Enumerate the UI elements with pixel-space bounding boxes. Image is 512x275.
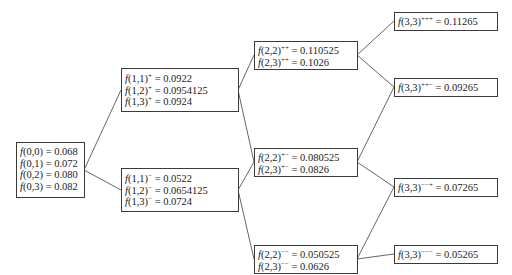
node-line: f(0,1) = 0.072	[20, 158, 81, 170]
node-line: f(0,0) = 0.068	[20, 146, 81, 158]
node-line: f(2,2)+− = 0.080525	[258, 152, 354, 164]
edge-n0-n1d	[84, 170, 121, 190]
node-line: f(3,3)+++ = 0.11265	[398, 16, 494, 28]
node-line: f(2,3)++ = 0.1026	[258, 57, 354, 69]
node-line: f(1,2)+ = 0.0954125	[125, 85, 235, 97]
node-line: f(3,3)−−+ = 0.07265	[398, 182, 494, 194]
node-f1-down: f(1,1)− = 0.0522 f(1,2)− = 0.0654125 f(1…	[121, 168, 239, 212]
node-line: f(2,3)−− = 0.0626	[258, 261, 354, 273]
edge-n1d-n2ud	[238, 162, 254, 190]
edge-n2ud-n3uud	[357, 87, 394, 162]
node-line: f(2,2)++ = 0.110525	[258, 45, 354, 57]
edge-n2uu-n3uud	[357, 55, 394, 87]
edge-n1u-n2uu	[238, 55, 254, 90]
node-line: f(3,3)++− = 0.09265	[398, 82, 494, 94]
node-f3-uuu: f(3,3)+++ = 0.11265	[394, 12, 498, 31]
node-line: f(1,1)− = 0.0522	[125, 173, 235, 185]
node-f2-up-down: f(2,2)+− = 0.080525 f(2,3)+− = 0.0826	[254, 148, 358, 177]
edge-n1u-n2ud	[238, 90, 254, 162]
node-f2-up-up: f(2,2)++ = 0.110525 f(2,3)++ = 0.1026	[254, 41, 358, 70]
node-f0: f(0,0) = 0.068 f(0,1) = 0.072 f(0,2) = 0…	[16, 142, 85, 198]
node-line: f(0,3) = 0.082	[20, 181, 81, 193]
node-line: f(1,3)− = 0.0724	[125, 196, 235, 208]
node-line: f(2,2)−− = 0.050525	[258, 249, 354, 261]
node-f3-ddu: f(3,3)−−+ = 0.07265	[394, 178, 498, 197]
node-line: f(1,3)+ = 0.0924	[125, 96, 235, 108]
edge-n0-n1u	[84, 90, 121, 170]
node-f2-down-down: f(2,2)−− = 0.050525 f(2,3)−− = 0.0626	[254, 245, 358, 274]
node-line: f(1,2)− = 0.0654125	[125, 185, 235, 197]
edge-n1d-n2dd	[238, 190, 254, 259]
node-line: f(1,1)+ = 0.0922	[125, 73, 235, 85]
node-f1-up: f(1,1)+ = 0.0922 f(1,2)+ = 0.0954125 f(1…	[121, 68, 239, 112]
edge-n2dd-n3ddu	[357, 187, 394, 259]
edge-n2ud-n3ddu	[357, 162, 394, 187]
node-line: f(0,2) = 0.080	[20, 169, 81, 181]
node-f3-ddd: f(3,3)−−− = 0.05265	[394, 245, 498, 264]
node-f3-uud: f(3,3)++− = 0.09265	[394, 78, 498, 97]
node-line: f(3,3)−−− = 0.05265	[398, 249, 494, 261]
edge-n2uu-n3uuu	[357, 21, 394, 55]
edge-n2dd-n3ddd	[357, 254, 394, 259]
node-line: f(2,3)+− = 0.0826	[258, 164, 354, 176]
